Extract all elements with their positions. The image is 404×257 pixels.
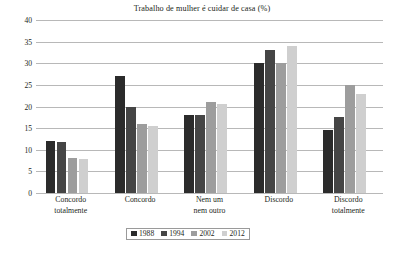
bar	[356, 94, 366, 193]
bar	[79, 159, 89, 193]
y-axis-tick-label: 20	[6, 102, 32, 111]
legend-item-2002[interactable]: 2002	[191, 230, 214, 238]
legend-swatch-icon	[131, 231, 137, 237]
x-axis-category-label-line: nem outro	[175, 206, 244, 217]
chart-legend: 1988199420022012	[126, 228, 250, 240]
bar	[46, 141, 56, 193]
y-axis-tick-label: 30	[6, 59, 32, 68]
bar-group	[314, 20, 383, 193]
y-axis-tick-label: 40	[6, 16, 32, 25]
x-axis-category-label-line: Discordo	[314, 195, 383, 206]
x-axis-category-label-line: Concordo	[36, 195, 105, 206]
bar	[265, 50, 275, 193]
bar-group	[175, 20, 244, 193]
x-axis-category-label-line: Concordo	[105, 195, 174, 206]
legend-swatch-icon	[161, 231, 167, 237]
legend-label: 2002	[199, 230, 214, 238]
bar	[115, 76, 125, 193]
bar	[206, 102, 216, 193]
bar-group	[244, 20, 313, 193]
bar	[323, 130, 333, 193]
x-axis-category-label-line: totalmente	[36, 206, 105, 217]
bar	[334, 117, 344, 193]
legend-item-2012[interactable]: 2012	[222, 230, 245, 238]
x-axis-category-label: Concordo	[105, 195, 174, 206]
bar	[148, 126, 158, 193]
legend-swatch-icon	[191, 231, 197, 237]
plot-area	[36, 20, 383, 193]
legend-item-1994[interactable]: 1994	[161, 230, 184, 238]
bar	[254, 63, 264, 193]
chart-title: Trabalho de mulher é cuidar de casa (%)	[0, 4, 404, 13]
y-axis-tick-label: 35	[6, 37, 32, 46]
bar	[68, 158, 78, 193]
legend-item-1988[interactable]: 1988	[131, 230, 154, 238]
y-axis: 0510152025303540	[0, 20, 32, 193]
x-axis-category-label-line: totalmente	[314, 206, 383, 217]
bar	[184, 115, 194, 193]
bar	[287, 46, 297, 193]
legend-label: 2012	[230, 230, 245, 238]
bar	[126, 107, 136, 194]
y-axis-tick-label: 5	[6, 167, 32, 176]
x-axis-category-label: Discordo	[244, 195, 313, 206]
x-axis-category-label-line: Discordo	[244, 195, 313, 206]
bar	[195, 115, 205, 193]
x-axis-category-label: Nem umnem outro	[175, 195, 244, 216]
bar	[137, 124, 147, 193]
legend-label: 1988	[139, 230, 154, 238]
gridline	[36, 193, 383, 194]
bar	[57, 142, 67, 193]
legend-label: 1994	[169, 230, 184, 238]
bar	[217, 104, 227, 193]
y-axis-tick-label: 0	[6, 189, 32, 198]
x-axis-category-label: Discordototalmente	[314, 195, 383, 216]
legend-swatch-icon	[222, 231, 228, 237]
bar-group	[105, 20, 174, 193]
bar	[345, 85, 355, 193]
x-axis-category-label-line: Nem um	[175, 195, 244, 206]
x-axis-category-labels: ConcordototalmenteConcordoNem umnem outr…	[36, 195, 383, 229]
bar	[276, 63, 286, 193]
x-axis-category-label: Concordototalmente	[36, 195, 105, 216]
y-axis-tick-label: 25	[6, 80, 32, 89]
bar-group	[36, 20, 105, 193]
y-axis-tick-label: 10	[6, 145, 32, 154]
bar-chart: Trabalho de mulher é cuidar de casa (%) …	[0, 0, 404, 257]
y-axis-tick-label: 15	[6, 124, 32, 133]
